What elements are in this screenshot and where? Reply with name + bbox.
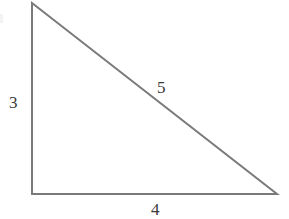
right-triangle-outline: [32, 3, 277, 194]
triangle-figure: 3 5 4: [0, 0, 289, 219]
triangle-graphic: [0, 0, 289, 219]
side-label-horizontal-leg: 4: [151, 201, 160, 218]
side-label-vertical-leg: 3: [9, 94, 18, 111]
side-label-hypotenuse: 5: [157, 79, 166, 96]
